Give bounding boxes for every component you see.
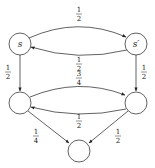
svg-text:2: 2 [142, 73, 146, 81]
svg-text:1: 1 [142, 64, 146, 72]
node-bottom [68, 140, 90, 162]
svg-text:2: 2 [6, 73, 10, 81]
label-bl-to-bottom: 1 4 [33, 128, 39, 145]
svg-text:2: 2 [77, 15, 81, 23]
svg-text:2: 2 [77, 122, 81, 130]
node-s-label: s [18, 39, 23, 49]
label-br-to-bl: 1 2 [76, 113, 82, 130]
svg-text:1: 1 [77, 56, 81, 64]
edge-s-prime-to-s [31, 47, 127, 55]
svg-text:1: 1 [34, 128, 38, 136]
node-s: s [9, 33, 31, 55]
svg-text:2: 2 [116, 137, 120, 145]
svg-text:4: 4 [34, 137, 39, 145]
svg-text:3: 3 [77, 70, 81, 78]
svg-text:1: 1 [77, 6, 81, 14]
svg-text:1: 1 [6, 64, 10, 72]
label-s-to-s-prime: 1 2 [76, 6, 82, 23]
edge-bl-to-br [30, 86, 125, 97]
label-br-to-bottom: 1 2 [115, 128, 121, 145]
svg-text:1: 1 [116, 128, 120, 136]
edge-s-to-s-prime [29, 27, 126, 38]
edge-br-to-bottom [89, 111, 128, 143]
node-bottom-left [9, 92, 31, 114]
node-s-prime: s′ [125, 33, 147, 55]
label-bl-to-br: 3 4 [76, 70, 82, 87]
label-s-to-bl: 1 2 [5, 64, 11, 81]
node-bottom-right [125, 92, 147, 114]
svg-text:4: 4 [77, 79, 82, 87]
node-s-prime-label: s′ [133, 39, 140, 49]
label-s-prime-to-br: 1 2 [141, 64, 147, 81]
svg-text:1: 1 [77, 113, 81, 121]
markov-chain-diagram: s s′ 1 2 1 2 1 2 1 2 3 4 [0, 0, 155, 168]
